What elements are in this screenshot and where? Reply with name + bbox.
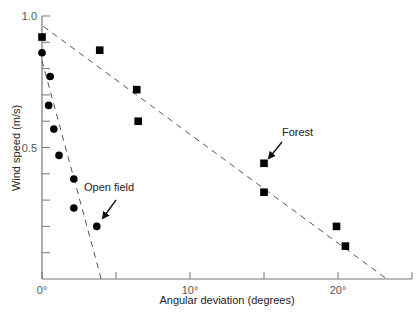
data-point-forest [96,46,104,54]
data-point-forest [260,159,268,167]
y-axis-title: Wind speed (m/s) [10,105,22,191]
x-axis-title: Angular deviation (degrees) [159,294,294,306]
data-point-open-field [45,102,53,110]
fit-line-open-field [42,61,101,279]
annotation-arrow-open-field [103,200,116,218]
data-point-forest [260,188,268,196]
data-point-open-field [93,223,101,231]
data-point-open-field [50,125,58,133]
data-point-open-field [38,49,46,57]
data-point-forest [38,33,46,41]
fit-line-forest [43,27,386,279]
data-point-forest [134,117,142,125]
scatter-chart: 0°10°20°0.51.0 ForestOpen field Angular … [0,0,419,318]
annotations: ForestOpen field [84,126,313,218]
annotation-open-field: Open field [84,181,134,193]
annotation-forest: Forest [282,126,313,138]
y-tick-label: 1.0 [22,10,37,22]
x-tick-label: 0° [37,284,48,296]
axes: 0°10°20°0.51.0 [22,10,412,296]
data-point-open-field [70,175,78,183]
data-point-forest [342,242,350,250]
fit-lines [42,27,387,279]
data-point-open-field [46,73,54,81]
data-point-forest [333,223,341,231]
data-point-open-field [70,204,78,212]
x-tick-label: 20° [330,284,347,296]
data-point-forest [133,86,141,94]
annotation-arrow-forest [269,142,282,158]
y-tick-label: 0.5 [22,142,37,154]
data-point-open-field [55,152,63,160]
